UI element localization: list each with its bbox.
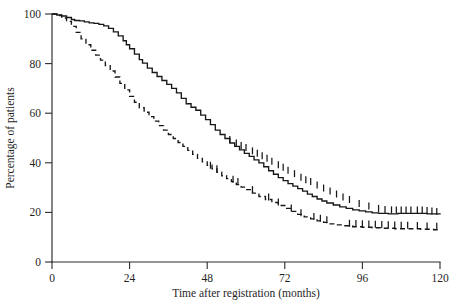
x-tick-label: 72 (279, 272, 291, 284)
x-tick-label: 120 (431, 272, 449, 284)
kaplan-meier-figure: 020406080100 024487296120 Time after reg… (0, 0, 468, 305)
y-tick-label: 0 (35, 256, 41, 268)
y-tick-label: 80 (30, 58, 42, 70)
y-tick-label: 100 (24, 8, 42, 20)
plot-background (0, 0, 468, 305)
y-tick-label: 60 (30, 107, 42, 119)
x-tick-label: 48 (201, 272, 213, 284)
x-axis-title: Time after registration (months) (172, 287, 320, 300)
x-tick-label: 96 (357, 272, 369, 284)
y-tick-label: 40 (30, 157, 42, 169)
x-tick-label: 24 (124, 272, 136, 284)
y-axis-title: Percentage of patients (4, 87, 17, 189)
y-tick-label: 20 (30, 206, 42, 218)
x-tick-label: 0 (49, 272, 55, 284)
survival-chart-svg: 020406080100 024487296120 Time after reg… (0, 0, 468, 305)
